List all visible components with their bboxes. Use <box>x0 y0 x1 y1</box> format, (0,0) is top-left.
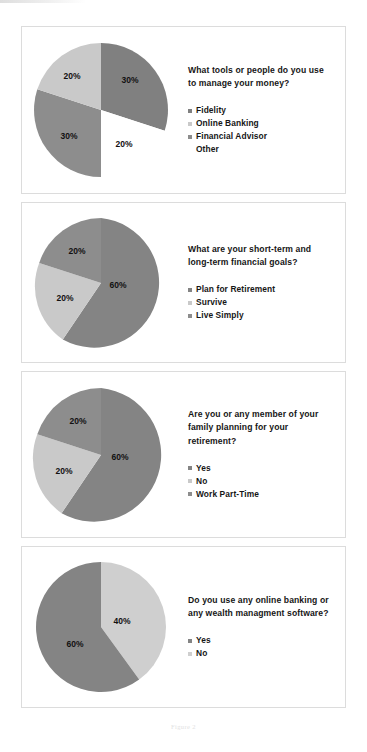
slice-label-financial-advisor: 30% <box>60 131 77 141</box>
legend-item-online-banking[interactable]: Online Banking <box>188 117 339 130</box>
legend-label: No <box>196 647 207 660</box>
chart-legend: Yes No <box>188 634 339 660</box>
slice-label-live-simply: 20% <box>68 246 85 256</box>
figure-caption: Figure 2 <box>21 723 346 730</box>
legend-swatch-icon <box>188 288 192 292</box>
legend-item-no[interactable]: No <box>188 647 339 660</box>
pie-slices <box>34 43 168 177</box>
slice-label-work-part-time: 20% <box>69 416 86 426</box>
chart-question: Do you use any online banking or any wea… <box>188 594 330 620</box>
slice-label-yes: 60% <box>66 639 83 649</box>
chart-info-retirement-planning: Are you or any member of your family pla… <box>180 408 345 500</box>
pie-chart-financial-goals: 60% 20% 20% <box>22 203 180 362</box>
legend-label: Live Simply <box>196 309 244 322</box>
slice-label-other: 20% <box>115 139 132 149</box>
legend-label: Plan for Retirement <box>196 283 275 296</box>
legend-item-fidelity[interactable]: Fidelity <box>188 104 339 117</box>
slice-label-survive: 20% <box>56 293 73 303</box>
legend-label: Yes <box>196 634 211 647</box>
report-page: 30% 20% 30% 20% What tools or people do … <box>0 0 367 752</box>
legend-swatch-icon <box>188 135 192 139</box>
legend-item-live-simply[interactable]: Live Simply <box>188 309 339 322</box>
chart-legend: Plan for Retirement Survive Live Simply <box>188 283 339 322</box>
legend-item-other[interactable]: Other <box>188 143 339 156</box>
chart-legend: Yes No Work Part-Time <box>188 462 339 501</box>
chart-question: What are your short-term and long-term f… <box>188 243 330 269</box>
legend-label: Work Part-Time <box>196 488 259 501</box>
pie-slices <box>33 388 161 522</box>
pie-svg: 60% 20% 20% <box>26 382 176 528</box>
legend-label: No <box>196 475 207 488</box>
chart-legend: Fidelity Online Banking Financial Adviso… <box>188 104 339 156</box>
chart-info-tools-or-people: What tools or people do you use to manag… <box>180 64 345 156</box>
legend-label: Yes <box>196 462 211 475</box>
pie-svg: 60% 20% 20% <box>26 212 176 354</box>
legend-item-yes[interactable]: Yes <box>188 634 339 647</box>
pie-svg: 40% 60% <box>26 556 176 698</box>
legend-swatch-icon <box>188 109 192 113</box>
legend-label: Online Banking <box>196 117 259 130</box>
slice-label-fidelity: 30% <box>121 75 138 85</box>
legend-item-work-part-time[interactable]: Work Part-Time <box>188 488 339 501</box>
legend-label: Other <box>196 143 219 156</box>
pie-slices <box>35 218 159 348</box>
pie-chart-online-banking-software: 40% 60% <box>22 547 180 707</box>
legend-label: Financial Advisor <box>196 130 267 143</box>
legend-label: Survive <box>196 296 227 309</box>
legend-swatch-icon <box>188 639 192 643</box>
legend-swatch-icon <box>188 301 192 305</box>
slice-label-no: 40% <box>113 616 130 626</box>
chart-panel-tools-or-people: 30% 20% 30% 20% What tools or people do … <box>21 26 346 194</box>
slice-label-no: 20% <box>55 466 72 476</box>
legend-swatch-icon <box>188 492 192 496</box>
legend-swatch-icon <box>188 652 192 656</box>
pie-chart-retirement-planning: 60% 20% 20% <box>22 372 180 537</box>
chart-info-online-banking-software: Do you use any online banking or any wea… <box>180 594 345 660</box>
legend-item-plan-for-retirement[interactable]: Plan for Retirement <box>188 283 339 296</box>
legend-swatch-icon <box>188 479 192 483</box>
chart-panel-online-banking-software: 40% 60% Do you use any online banking or… <box>21 546 346 708</box>
chart-panel-financial-goals: 60% 20% 20% What are your short-term and… <box>21 202 346 363</box>
slice-label-online-banking: 20% <box>63 71 80 81</box>
pie-chart-tools-or-people: 30% 20% 30% 20% <box>22 27 180 193</box>
legend-label: Fidelity <box>196 104 226 117</box>
legend-item-no[interactable]: No <box>188 475 339 488</box>
legend-swatch-icon <box>188 122 192 126</box>
legend-swatch-icon <box>188 314 192 318</box>
slice-label-yes: 60% <box>111 452 128 462</box>
pie-slices <box>36 562 166 692</box>
chart-question: What tools or people do you use to manag… <box>188 64 330 90</box>
legend-swatch-icon <box>188 466 192 470</box>
legend-item-yes[interactable]: Yes <box>188 462 339 475</box>
chart-panel-retirement-planning: 60% 20% 20% Are you or any member of you… <box>21 371 346 538</box>
scan-artifact <box>0 0 86 3</box>
legend-item-financial-advisor[interactable]: Financial Advisor <box>188 130 339 143</box>
legend-item-survive[interactable]: Survive <box>188 296 339 309</box>
slice-label-plan-for-retirement: 60% <box>109 280 126 290</box>
legend-swatch-icon <box>188 148 192 152</box>
chart-info-financial-goals: What are your short-term and long-term f… <box>180 243 345 322</box>
chart-question: Are you or any member of your family pla… <box>188 408 330 447</box>
pie-svg: 30% 20% 30% 20% <box>26 37 176 183</box>
